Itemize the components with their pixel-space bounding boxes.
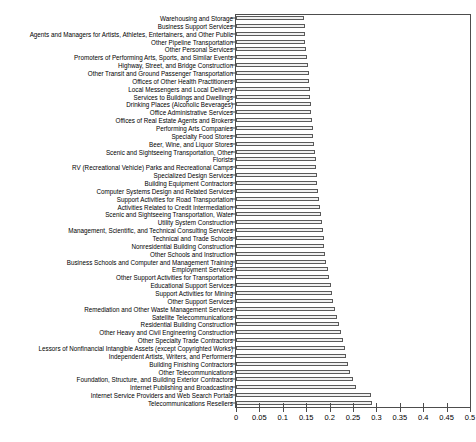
x-tick-mark — [330, 408, 331, 412]
x-tick-mark — [236, 408, 237, 412]
x-tick-label: 0.15 — [299, 413, 314, 422]
x-tick-label: 0.3 — [371, 413, 381, 422]
bar-chart: Warehousing and StorageBusiness Support … — [0, 0, 476, 442]
x-tick-mark — [447, 408, 448, 412]
x-tick-mark — [259, 408, 260, 412]
x-tick-mark-inner — [353, 403, 354, 407]
x-tick-label: 0.05 — [252, 413, 267, 422]
x-tick-label: 0.1 — [278, 413, 288, 422]
x-tick-mark-inner — [447, 403, 448, 407]
x-tick-mark-inner — [283, 403, 284, 407]
x-tick-mark-inner — [330, 403, 331, 407]
x-tick-label: 0.45 — [439, 413, 454, 422]
x-tick-mark — [376, 408, 377, 412]
x-tick-mark-inner — [423, 403, 424, 407]
x-tick-mark — [400, 408, 401, 412]
x-tick-mark — [470, 408, 471, 412]
x-tick-label: 0.2 — [324, 413, 334, 422]
x-tick-mark — [283, 408, 284, 412]
x-tick-mark-inner — [236, 403, 237, 407]
x-tick-mark-inner — [306, 403, 307, 407]
x-tick-mark-inner — [259, 403, 260, 407]
x-tick-label: 0.5 — [465, 413, 475, 422]
x-tick-label: 0 — [234, 413, 238, 422]
x-tick-label: 0.4 — [418, 413, 428, 422]
x-tick-mark-inner — [470, 403, 471, 407]
x-tick-mark-inner — [376, 403, 377, 407]
x-tick-mark — [306, 408, 307, 412]
x-axis-ticks: 00.050.10.150.20.250.30.350.40.450.5 — [0, 0, 476, 442]
x-tick-mark-inner — [400, 403, 401, 407]
x-tick-mark — [353, 408, 354, 412]
x-tick-label: 0.25 — [346, 413, 361, 422]
x-tick-label: 0.35 — [392, 413, 407, 422]
x-tick-mark — [423, 408, 424, 412]
